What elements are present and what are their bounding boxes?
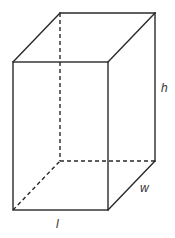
top-left-edge [13, 13, 60, 62]
top-right-edge [108, 13, 155, 62]
length-label: l [56, 217, 59, 231]
height-label: h [161, 81, 168, 95]
width-label: w [140, 181, 150, 195]
hidden-bottom-left-depth-edge [13, 161, 60, 210]
prism-diagram: h w l [0, 0, 175, 238]
